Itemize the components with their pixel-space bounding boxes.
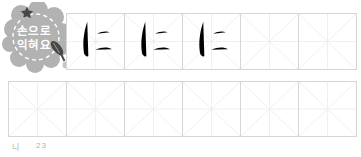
badge-blob: [2, 2, 71, 73]
grid-guides-icon: [9, 82, 66, 136]
grid-guides-icon: [299, 14, 356, 69]
grid-guides-icon: [67, 82, 124, 136]
practice-cell: [66, 81, 125, 137]
hiragana-ni-glyph: [125, 14, 182, 69]
footer-page-number: 23: [36, 141, 47, 152]
hiragana-ni-glyph: [67, 14, 124, 69]
grid-guides-icon: [299, 82, 356, 136]
grid-guides-icon: [183, 82, 240, 136]
hiragana-ni-glyph: [183, 14, 240, 69]
practice-cell: [240, 81, 299, 137]
practice-cell: [240, 13, 299, 70]
worksheet-page: 손으로 익혀요: [0, 0, 361, 157]
practice-cell: [124, 13, 183, 70]
page-footer: 니 23: [12, 141, 47, 152]
badge-line2: 익혀요: [17, 38, 52, 51]
practice-cell: [182, 81, 241, 137]
practice-cell: [124, 81, 183, 137]
section-badge: 손으로 익혀요: [0, 2, 74, 76]
practice-cell: [8, 81, 67, 137]
footer-reading: 니: [12, 141, 20, 152]
practice-cell: [298, 13, 357, 70]
top-practice-row: [66, 13, 357, 70]
grid-guides-icon: [241, 14, 298, 69]
bottom-practice-row: [8, 81, 357, 137]
grid-guides-icon: [125, 82, 182, 136]
practice-cell: [182, 13, 241, 70]
grid-guides-icon: [241, 82, 298, 136]
practice-cell: [66, 13, 125, 70]
badge-line1: 손으로: [17, 25, 52, 37]
practice-cell: [298, 81, 357, 137]
